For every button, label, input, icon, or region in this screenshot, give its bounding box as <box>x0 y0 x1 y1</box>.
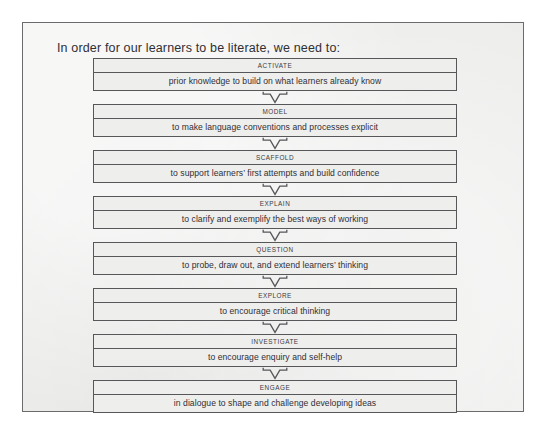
step-description: prior knowledge to build on what learner… <box>94 73 456 90</box>
flow-step: EXPLAINto clarify and exemplify the best… <box>93 196 457 229</box>
step-title: ACTIVATE <box>94 59 456 73</box>
flow-step: ACTIVATEprior knowledge to build on what… <box>93 58 457 91</box>
step-title: QUESTION <box>94 243 456 257</box>
flow-step: INVESTIGATEto encourage enquiry and self… <box>93 334 457 367</box>
step-description: to support learners’ first attempts and … <box>94 165 456 182</box>
down-arrow-icon <box>93 183 457 196</box>
step-description: to probe, draw out, and extend learners’… <box>94 257 456 274</box>
flow-step: MODELto make language conventions and pr… <box>93 104 457 137</box>
step-title: ENGAGE <box>94 381 456 395</box>
step-description: to encourage critical thinking <box>94 303 456 320</box>
flow-diagram: ACTIVATEprior knowledge to build on what… <box>93 58 457 413</box>
page-title: In order for our learners to be literate… <box>57 41 340 55</box>
down-arrow-icon <box>93 275 457 288</box>
step-box: ACTIVATEprior knowledge to build on what… <box>93 58 457 91</box>
step-title: EXPLORE <box>94 289 456 303</box>
page-sheet: In order for our learners to be literate… <box>22 22 524 412</box>
step-box: QUESTIONto probe, draw out, and extend l… <box>93 242 457 275</box>
step-description: to clarify and exemplify the best ways o… <box>94 211 456 228</box>
down-arrow-icon <box>93 321 457 334</box>
step-box: SCAFFOLDto support learners’ first attem… <box>93 150 457 183</box>
step-box: ENGAGEin dialogue to shape and challenge… <box>93 380 457 413</box>
step-description: to make language conventions and process… <box>94 119 456 136</box>
down-arrow-icon <box>93 91 457 104</box>
step-description: in dialogue to shape and challenge devel… <box>94 395 456 412</box>
step-box: MODELto make language conventions and pr… <box>93 104 457 137</box>
step-title: INVESTIGATE <box>94 335 456 349</box>
step-box: EXPLAINto clarify and exemplify the best… <box>93 196 457 229</box>
flow-step: EXPLOREto encourage critical thinking <box>93 288 457 321</box>
step-box: EXPLOREto encourage critical thinking <box>93 288 457 321</box>
step-title: SCAFFOLD <box>94 151 456 165</box>
step-description: to encourage enquiry and self-help <box>94 349 456 366</box>
down-arrow-icon <box>93 367 457 380</box>
down-arrow-icon <box>93 229 457 242</box>
step-box: INVESTIGATEto encourage enquiry and self… <box>93 334 457 367</box>
step-title: MODEL <box>94 105 456 119</box>
flow-step: QUESTIONto probe, draw out, and extend l… <box>93 242 457 275</box>
flow-step: SCAFFOLDto support learners’ first attem… <box>93 150 457 183</box>
down-arrow-icon <box>93 137 457 150</box>
flow-step: ENGAGEin dialogue to shape and challenge… <box>93 380 457 413</box>
step-title: EXPLAIN <box>94 197 456 211</box>
